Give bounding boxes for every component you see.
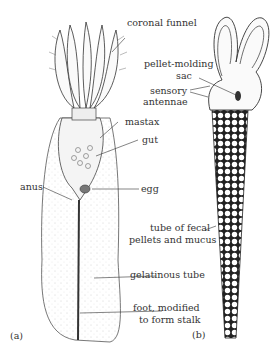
panel-a-letter: (a) — [10, 331, 23, 341]
label-gut: gut — [142, 135, 158, 145]
label-egg: egg — [141, 184, 159, 194]
panel-a-drawing — [42, 22, 162, 342]
label-anus: anus — [20, 182, 43, 192]
label-gelatinous-tube: gelatinous tube — [130, 270, 205, 280]
label-tube-line2: pellets and mucus — [129, 235, 216, 245]
label-foot-line1: foot, modified — [133, 303, 200, 313]
label-pellet-molding-line1: pellet-molding — [144, 59, 214, 69]
label-sensory-line2: antennae — [143, 97, 188, 107]
label-foot-line2: to form stalk — [139, 315, 201, 325]
panel-b-letter: (b) — [192, 330, 206, 340]
label-coronal-funnel: coronal funnel — [127, 18, 197, 28]
label-sensory-line1: sensory — [150, 86, 187, 96]
label-pellet-molding-line2: sac — [176, 71, 192, 81]
label-tube-line1: tube of fecal — [150, 223, 210, 233]
label-mastax: mastax — [125, 117, 159, 127]
